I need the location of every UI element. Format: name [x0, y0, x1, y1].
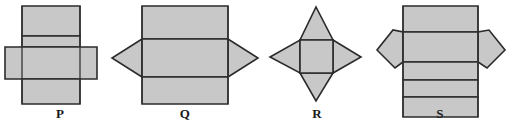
net-label-p: P [40, 107, 80, 121]
net-s-band-1 [403, 6, 478, 32]
net-p-bottom-rectangle [22, 79, 80, 104]
net-q [112, 6, 258, 104]
net-label-s: S [420, 107, 460, 121]
net-p [5, 6, 97, 104]
net-label-q: Q [165, 107, 205, 121]
net-r-left-triangle [270, 40, 300, 73]
net-p-horizontal-bar [5, 47, 97, 79]
net-s-left-pentagon-flap [377, 30, 403, 68]
net-r-right-triangle [333, 40, 361, 73]
net-s [377, 6, 505, 117]
net-r-bottom-triangle [300, 73, 333, 101]
net-s-band-2 [403, 32, 478, 62]
net-r-top-triangle [300, 7, 333, 40]
net-q-bottom-band [142, 77, 228, 104]
net-q-middle-band [142, 39, 228, 77]
net-q-left-triangle-flap [112, 39, 142, 77]
net-r [270, 7, 361, 101]
net-p-top-rectangle [22, 6, 80, 36]
net-q-top-band [142, 6, 228, 39]
net-s-band-3 [403, 62, 478, 80]
net-s-band-4 [403, 80, 478, 97]
net-label-r: R [297, 107, 337, 121]
net-p-upper-middle-rectangle [22, 36, 80, 47]
net-q-right-triangle-flap [228, 39, 258, 77]
geometric-nets-figure: P Q R S [0, 0, 513, 124]
net-s-right-pentagon-flap [478, 30, 505, 68]
net-r-center-square [300, 40, 333, 73]
